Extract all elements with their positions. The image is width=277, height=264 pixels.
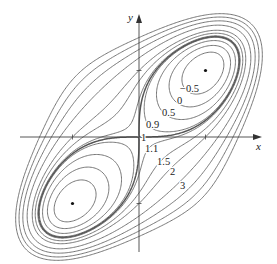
contour-plot: −0.500.50.911.11.523 x y bbox=[0, 0, 277, 264]
contour-label: 1 bbox=[141, 132, 146, 143]
contour-label: 1.1 bbox=[145, 143, 158, 154]
minimum-point-marker bbox=[204, 69, 207, 72]
contour-label: −0.5 bbox=[180, 83, 199, 94]
y-axis-label: y bbox=[127, 11, 133, 23]
contour-label: 2 bbox=[170, 166, 175, 177]
contour-label: 0.9 bbox=[146, 119, 159, 130]
contour-label: 0.5 bbox=[162, 107, 175, 118]
minimum-point-marker bbox=[71, 202, 74, 205]
contour-label: 3 bbox=[180, 180, 185, 191]
contour-label: 0 bbox=[177, 95, 182, 106]
y-axis-arrow-icon bbox=[136, 14, 142, 23]
x-axis-label: x bbox=[255, 140, 261, 152]
contour-label: 1.5 bbox=[157, 156, 170, 167]
